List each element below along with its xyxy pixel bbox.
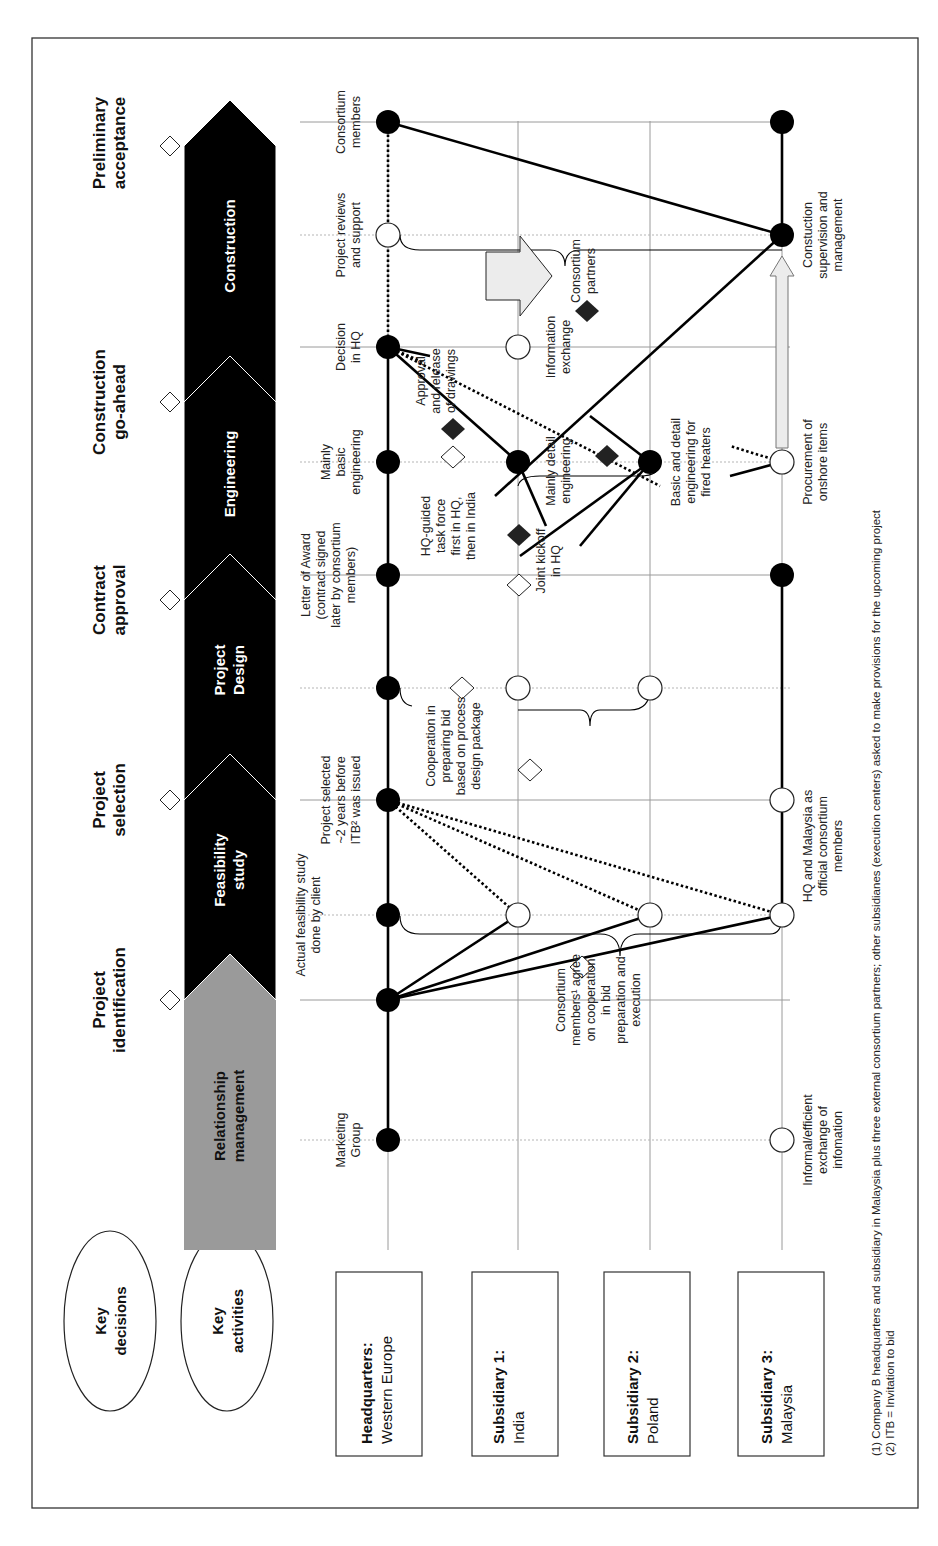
lane-subsidiary-malaysia: Subsidiary 3: Malaysia [738,1272,824,1456]
key-decision-preliminary-acceptance: Preliminary acceptance [90,96,180,189]
braces [400,235,782,956]
svg-text:supervision and: supervision and [816,191,830,279]
open-diamond-icon [518,759,542,781]
node-filled [376,676,400,700]
node-filled [770,110,794,134]
svg-text:official consortium: official consortium [816,796,830,896]
svg-text:members¹ agree: members¹ agree [569,954,583,1046]
svg-text:ITB² was issued: ITB² was issued [349,755,363,844]
key-activities-oval: Key activities [181,1231,273,1411]
svg-text:then in India: then in India [464,492,478,560]
svg-text:later by consortium: later by consortium [329,522,343,628]
consortium-partners-arrow [486,236,552,316]
svg-text:Basic and detail: Basic and detail [669,418,683,506]
decision-diamond-icon [160,136,180,156]
key-decision-construction-go-ahead: Construction go-ahead [90,349,180,455]
svg-text:Joint kickoff: Joint kickoff [534,528,548,594]
svg-text:based on process: based on process [454,697,468,796]
node-filled [376,788,400,812]
node-filled [770,223,794,247]
decision-diamond-icon [160,392,180,412]
svg-text:Subsidiary 2:: Subsidiary 2: [624,1350,641,1444]
svg-text:design package: design package [469,702,483,790]
svg-text:Constuction: Constuction [801,202,815,268]
svg-text:Consortium: Consortium [569,239,583,303]
svg-text:Project reviews: Project reviews [334,193,348,278]
svg-text:Group: Group [349,1123,363,1158]
diagram-rotated-canvas: Key decisions Key activities Project ide… [0,0,938,1546]
svg-text:exchange of: exchange of [816,1105,830,1174]
svg-text:preparing bid: preparing bid [439,709,453,782]
svg-text:Consortium: Consortium [554,968,568,1032]
svg-text:Approval: Approval [414,356,428,405]
svg-text:Headquarters:: Headquarters: [358,1342,375,1444]
svg-text:India: India [510,1411,527,1444]
filled-diamond-icon [507,524,531,546]
svg-text:in HQ: in HQ [349,331,363,363]
svg-text:Key: Key [92,1307,109,1335]
activity-diamonds [441,300,619,978]
lane-subsidiary-india: Subsidiary 1: India [472,1272,558,1456]
node-filled [506,450,530,474]
svg-text:management: management [831,198,845,271]
node-open [638,903,662,927]
svg-text:Project: Project [90,771,109,829]
process-diagram: Key decisions Key activities Project ide… [0,0,938,1546]
node-open [770,903,794,927]
svg-text:engineering: engineering [559,438,573,503]
svg-text:management: management [230,1070,247,1163]
svg-text:infomation: infomation [831,1111,845,1169]
node-filled [376,563,400,587]
node-open [376,223,400,247]
svg-text:Subsidiary 1:: Subsidiary 1: [490,1350,507,1444]
node-filled [638,450,662,474]
svg-text:approval: approval [110,565,129,636]
node-open [770,450,794,474]
svg-text:Cooperation in: Cooperation in [424,705,438,786]
svg-text:of drawings: of drawings [444,349,458,413]
svg-text:HQ-guided: HQ-guided [419,496,433,556]
svg-text:and support: and support [349,201,363,268]
node-open [638,676,662,700]
node-open [506,676,530,700]
filled-diamond-icon [575,300,599,322]
svg-text:Construction: Construction [221,199,238,292]
svg-text:members: members [831,820,845,872]
svg-text:decisions: decisions [112,1286,129,1355]
filled-diamond-icon [441,418,465,440]
svg-text:(1) Company B headquarters and: (1) Company B headquarters and subsidiar… [870,509,882,1456]
node-open [506,903,530,927]
node-filled [770,563,794,587]
svg-text:fired heaters: fired heaters [699,427,713,496]
decision-diamond-icon [160,990,180,1010]
node-open [506,335,530,359]
svg-text:in HQ: in HQ [549,545,563,577]
svg-text:Contract: Contract [90,565,109,635]
svg-text:basic: basic [334,447,348,476]
phase-chevrons: Relationship management Feasibility stud… [184,100,276,1250]
svg-text:Engineering: Engineering [221,431,238,518]
svg-text:(2) ITB = Invitation to bid: (2) ITB = Invitation to bid [884,1330,896,1456]
svg-text:identification: identification [110,947,129,1053]
svg-text:Consortium: Consortium [334,90,348,154]
lane-subsidiary-poland: Subsidiary 2: Poland [604,1272,690,1456]
decision-diamond-icon [160,790,180,810]
node-filled [376,988,400,1012]
node-filled [376,110,400,134]
lane-headquarters: Headquarters: Western Europe [336,1272,422,1456]
svg-text:Mainly detail: Mainly detail [544,436,558,505]
svg-text:~2 years before: ~2 years before [334,756,348,843]
node-open [770,1128,794,1152]
svg-text:members: members [349,96,363,148]
svg-text:Subsidiary 3:: Subsidiary 3: [758,1350,775,1444]
svg-text:partners: partners [584,248,598,294]
svg-text:study: study [230,849,247,890]
open-diamond-icon [441,446,465,468]
svg-text:Western Europe: Western Europe [378,1336,395,1444]
svg-text:Actual feasibility study: Actual feasibility study [294,853,308,977]
svg-text:Malaysia: Malaysia [778,1384,795,1444]
svg-text:Feasibility: Feasibility [211,833,228,907]
svg-text:activities: activities [229,1289,246,1353]
svg-text:Preliminary: Preliminary [90,96,109,189]
node-filled [376,450,400,474]
